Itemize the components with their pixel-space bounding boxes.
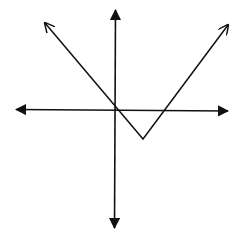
y-axis bbox=[115, 10, 116, 228]
x-axis bbox=[16, 110, 228, 112]
absolute-value-graph bbox=[0, 0, 243, 238]
v-shaped-function-line bbox=[45, 23, 228, 139]
